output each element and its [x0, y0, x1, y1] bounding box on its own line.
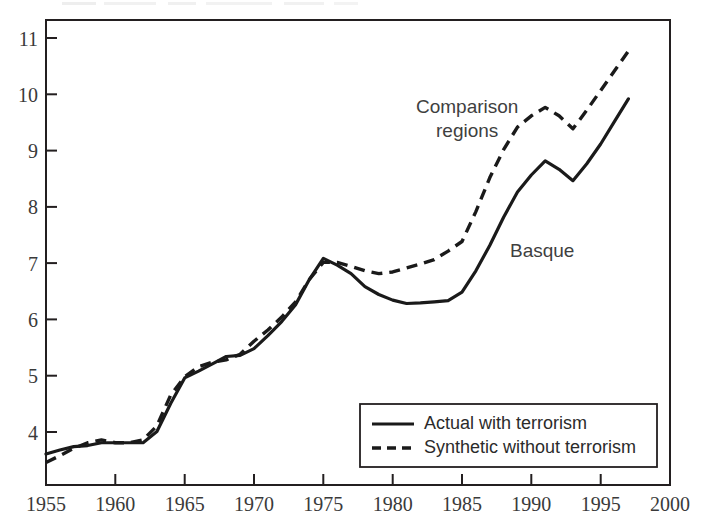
legend-label-actual: Actual with terrorism: [424, 413, 587, 433]
y-tick-label: 9: [28, 140, 38, 162]
line-chart: 11 10 9 8 7 6 5 4 1955 1960 1965: [0, 0, 705, 531]
chart-legend: Actual with terrorism Synthetic without …: [360, 404, 657, 467]
comparison-regions-annotation-line2: regions: [436, 120, 498, 141]
x-tick-label: 1970: [234, 493, 274, 515]
y-tick-label: 10: [18, 84, 38, 106]
x-tick-label: 1960: [95, 493, 135, 515]
scan-crop-artifact: [62, 2, 358, 5]
basque-annotation: Basque: [510, 240, 574, 261]
comparison-regions-annotation-line1: Comparison: [416, 96, 518, 117]
y-tick-label: 8: [28, 196, 38, 218]
x-axis-ticks: [46, 474, 670, 485]
y-tick-label: 4: [28, 422, 38, 444]
x-tick-label: 1975: [303, 493, 343, 515]
x-axis-tick-labels: 1955 1960 1965 1970 1975 1980 1985 1990 …: [26, 493, 690, 515]
y-tick-label: 11: [19, 28, 38, 50]
legend-label-synthetic: Synthetic without terrorism: [424, 437, 636, 457]
actual-with-terrorism-line: [46, 99, 628, 454]
x-tick-label: 2000: [650, 493, 690, 515]
x-tick-label: 1980: [373, 493, 413, 515]
x-tick-label: 1985: [442, 493, 482, 515]
y-tick-label: 5: [28, 365, 38, 387]
x-tick-label: 1965: [165, 493, 205, 515]
chart-figure: 11 10 9 8 7 6 5 4 1955 1960 1965: [0, 0, 705, 531]
x-tick-label: 1990: [511, 493, 551, 515]
y-tick-label: 6: [28, 309, 38, 331]
y-tick-label: 7: [28, 253, 38, 275]
y-axis-ticks: [46, 38, 57, 432]
x-tick-label: 1995: [581, 493, 621, 515]
x-tick-label: 1955: [26, 493, 66, 515]
y-axis-tick-labels: 11 10 9 8 7 6 5 4: [18, 28, 38, 444]
